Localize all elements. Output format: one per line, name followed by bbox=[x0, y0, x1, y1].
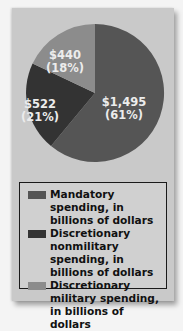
slice-label-nonmilitary: $522 (21%) bbox=[10, 98, 70, 124]
legend-item-military: Discretionary military spending, in bill… bbox=[24, 279, 162, 331]
legend-swatch-military bbox=[28, 282, 46, 290]
slice-percent: (18%) bbox=[35, 62, 95, 75]
slice-label-mandatory: $1,495 (61%) bbox=[94, 96, 154, 122]
slice-percent: (21%) bbox=[10, 111, 70, 124]
legend: Mandatory spending, in billions of dolla… bbox=[19, 182, 167, 289]
legend-label: Discretionary nonmilitary spending, in b… bbox=[50, 227, 162, 279]
legend-item-mandatory: Mandatory spending, in billions of dolla… bbox=[24, 188, 162, 227]
slice-label-military: $440 (18%) bbox=[35, 49, 95, 75]
slice-percent: (61%) bbox=[94, 109, 154, 122]
legend-item-nonmilitary: Discretionary nonmilitary spending, in b… bbox=[24, 227, 162, 279]
chart-card: $440 (18%) $522 (21%) $1,495 (61%) Manda… bbox=[12, 8, 174, 301]
legend-label: Mandatory spending, in billions of dolla… bbox=[50, 188, 162, 227]
legend-label: Discretionary military spending, in bill… bbox=[50, 279, 162, 331]
legend-swatch-mandatory bbox=[28, 191, 46, 199]
legend-swatch-nonmilitary bbox=[28, 230, 46, 238]
